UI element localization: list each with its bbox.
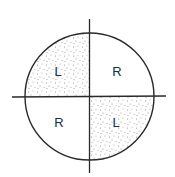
quadrant-bottom-right-label: L <box>112 115 119 130</box>
quadrant-top-left-label: L <box>54 64 61 79</box>
quadrant-diagram: L R R L <box>0 0 175 177</box>
quadrant-top-right-label: R <box>112 64 121 79</box>
quadrant-bottom-left-label: R <box>54 115 63 130</box>
